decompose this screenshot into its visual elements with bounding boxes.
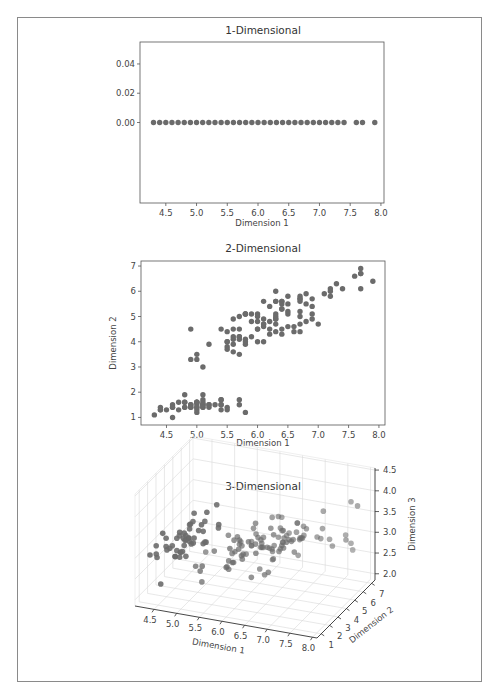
data-point	[243, 339, 248, 344]
data-point	[170, 415, 175, 420]
x-tick-label: 6.0	[211, 627, 225, 637]
data-point	[237, 397, 242, 402]
x-tick-label: 4.5	[143, 615, 157, 625]
data-point	[225, 120, 230, 125]
data-point	[273, 314, 278, 319]
y-tick-label: 6	[131, 286, 136, 296]
data-point	[273, 289, 278, 294]
data-point	[267, 304, 272, 309]
data-point	[231, 560, 237, 566]
data-point	[286, 120, 291, 125]
data-point	[236, 546, 242, 552]
z-tick-label: 2.5	[383, 548, 397, 558]
data-point	[318, 536, 324, 542]
data-point	[175, 120, 180, 125]
x-tick-mark	[197, 617, 199, 620]
data-point	[280, 120, 285, 125]
data-point	[267, 319, 272, 324]
y-tick-mark	[338, 617, 341, 619]
y-tick-mark	[321, 634, 324, 636]
data-point	[224, 407, 229, 412]
data-point	[294, 529, 300, 535]
data-point	[355, 503, 361, 509]
z-tick-label: 3.0	[383, 527, 397, 537]
data-point	[261, 120, 266, 125]
grid-line	[135, 438, 193, 496]
data-point	[249, 319, 254, 324]
y-tick-mark	[363, 592, 366, 594]
data-point	[279, 301, 284, 306]
y-tick-label: 3	[131, 362, 136, 372]
data-point	[328, 289, 333, 294]
figure-canvas: 1-Dimensional 4.55.05.56.06.57.07.58.0 0…	[0, 0, 496, 696]
chart-3d-points	[147, 499, 360, 587]
data-point	[237, 337, 242, 342]
data-point	[177, 530, 183, 536]
chart-1d-points	[151, 120, 378, 125]
data-point	[223, 565, 229, 571]
data-point	[237, 120, 242, 125]
x-tick-label: 5.5	[221, 208, 235, 218]
data-point	[323, 120, 328, 125]
data-point	[271, 532, 277, 538]
data-point	[270, 557, 276, 563]
data-point	[273, 299, 278, 304]
chart-1d-xlabel: Dimension 1	[235, 218, 288, 228]
data-point	[300, 535, 306, 541]
data-point	[358, 271, 363, 276]
x-tick-label: 7.0	[313, 208, 327, 218]
z-tick-label: 4.5	[383, 465, 397, 475]
y-tick-label: 2	[131, 387, 136, 397]
x-tick-label: 7.0	[311, 430, 325, 440]
data-point	[358, 286, 363, 291]
data-point	[224, 347, 229, 352]
chart-2d-points	[152, 266, 376, 420]
data-point	[191, 510, 197, 516]
y-tick-mark	[372, 583, 375, 585]
data-point	[297, 321, 302, 326]
data-point	[276, 514, 282, 520]
x-tick-label: 7.5	[342, 430, 356, 440]
chart-2d-title: 2-Dimensional	[225, 242, 301, 254]
data-point	[340, 286, 345, 291]
cut-off-caption	[0, 689, 496, 696]
data-point	[279, 331, 284, 336]
data-point	[227, 546, 233, 552]
data-point	[350, 547, 356, 553]
data-point	[194, 357, 199, 362]
data-point	[224, 329, 229, 334]
data-point	[255, 319, 260, 324]
x-tick-label: 4.5	[159, 208, 173, 218]
data-point	[335, 120, 340, 125]
grid-line	[156, 585, 338, 617]
data-point	[164, 407, 169, 412]
data-point	[285, 301, 290, 306]
data-point	[212, 402, 217, 407]
data-point	[199, 563, 205, 569]
grid-line	[181, 560, 363, 592]
data-point	[199, 522, 205, 528]
x-tick-label: 6.0	[251, 208, 265, 218]
data-point	[180, 549, 186, 555]
data-point	[243, 311, 248, 316]
chart-1d-x-ticks: 4.55.05.56.06.57.07.58.0	[159, 203, 388, 218]
data-point	[181, 543, 187, 549]
data-point	[372, 120, 377, 125]
data-point	[328, 294, 333, 299]
data-point	[147, 552, 153, 558]
x-tick-label: 4.5	[160, 430, 174, 440]
y-tick-label: 7	[379, 589, 384, 599]
data-point	[327, 537, 333, 543]
z-tick-label: 4.0	[383, 486, 397, 496]
y-axis-label: Dimension 2	[347, 604, 395, 645]
data-point	[226, 532, 232, 538]
data-point	[303, 291, 308, 296]
data-point	[211, 548, 217, 554]
data-point	[317, 120, 322, 125]
data-point	[206, 342, 211, 347]
data-point	[194, 400, 199, 405]
data-point	[297, 329, 302, 334]
y-tick-label: 1	[131, 412, 136, 422]
data-point	[199, 579, 205, 585]
x-tick-mark	[310, 637, 312, 640]
